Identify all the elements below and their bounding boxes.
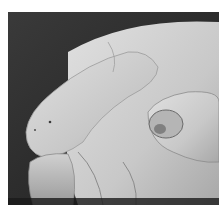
hand-photo — [8, 12, 219, 205]
bottom-shadow — [8, 198, 219, 205]
thumbnail — [149, 110, 183, 138]
middle-finger — [29, 154, 75, 205]
nail-discoloration — [154, 124, 166, 134]
skin-spot — [49, 121, 52, 124]
skin-spot — [34, 129, 36, 131]
